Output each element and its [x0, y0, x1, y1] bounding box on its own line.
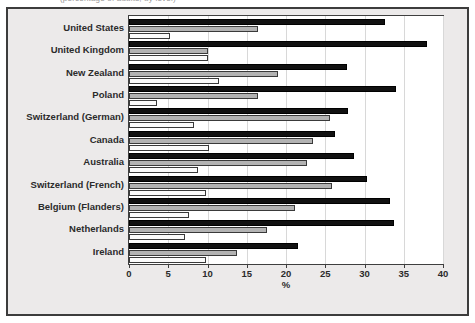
chart-figure: United StatesUnited KingdomNew ZealandPo…: [6, 7, 469, 316]
category-label: United Kingdom: [51, 45, 124, 55]
axis-tick-label: 25: [320, 268, 331, 279]
bar-group: [129, 243, 443, 265]
bar-series-1: [129, 41, 427, 47]
bar-series-2: [129, 160, 307, 166]
category-label: Belgium (Flanders): [38, 202, 124, 212]
bar-series-2: [129, 93, 258, 99]
clipped-caption-text: (percentage of adults, by level): [60, 0, 176, 3]
bar-series-1: [129, 86, 396, 92]
category-label: Poland: [92, 90, 124, 100]
bar-series-2: [129, 26, 258, 32]
bar-group: [129, 108, 443, 130]
bar-series-2: [129, 205, 295, 211]
bar-group: [129, 176, 443, 198]
bar-group: [129, 86, 443, 108]
bar-series-3: [129, 167, 198, 173]
bar-series-2: [129, 227, 267, 233]
bar-series-1: [129, 243, 298, 249]
category-label: United States: [63, 23, 124, 33]
bar-series-1: [129, 220, 394, 226]
axis-tick-label: 15: [241, 268, 252, 279]
x-axis-title: %: [128, 279, 444, 290]
category-label: Netherlands: [69, 224, 124, 234]
plot-area: [128, 15, 444, 265]
bar-series-3: [129, 78, 219, 84]
bar-series-2: [129, 71, 278, 77]
category-label: Canada: [90, 135, 124, 145]
axis-tick-label: 35: [398, 268, 409, 279]
category-label: Switzerland (German): [26, 112, 124, 122]
bar-group: [129, 41, 443, 63]
bar-series-2: [129, 115, 330, 121]
axis-tick-label: 0: [126, 268, 131, 279]
category-label: Australia: [83, 157, 124, 167]
category-axis-labels: United StatesUnited KingdomNew ZealandPo…: [8, 15, 128, 265]
bar-series-1: [129, 131, 335, 137]
axis-tick-label: 20: [281, 268, 292, 279]
bar-series-1: [129, 153, 354, 159]
bar-group: [129, 220, 443, 242]
axis-tick-label: 30: [359, 268, 370, 279]
bar-group: [129, 131, 443, 153]
bar-series-3: [129, 100, 157, 106]
category-label: New Zealand: [66, 68, 124, 78]
bar-series-3: [129, 55, 208, 61]
bar-group: [129, 64, 443, 86]
bar-series-3: [129, 122, 194, 128]
category-label: Switzerland (French): [31, 180, 124, 190]
bar-series-2: [129, 183, 332, 189]
clipped-caption: (percentage of adults, by level): [0, 0, 475, 6]
bar-series-1: [129, 19, 385, 25]
gridline: [443, 16, 444, 264]
bar-series-1: [129, 64, 347, 70]
bar-series-2: [129, 250, 237, 256]
bar-group: [129, 198, 443, 220]
bar-series-3: [129, 145, 209, 151]
category-label: Ireland: [93, 247, 124, 257]
axis-tick-label: 5: [166, 268, 171, 279]
bar-group: [129, 19, 443, 41]
bar-series-3: [129, 212, 189, 218]
bar-series-1: [129, 108, 348, 114]
bar-series-3: [129, 33, 170, 39]
bar-series-1: [129, 198, 390, 204]
axis-tick-label: 40: [438, 268, 449, 279]
bar-group: [129, 153, 443, 175]
axis-tick-label: 10: [202, 268, 213, 279]
bar-series-3: [129, 257, 206, 263]
bar-series-3: [129, 234, 185, 240]
bar-series-3: [129, 190, 206, 196]
bar-series-1: [129, 176, 367, 182]
screenshot-root: (percentage of adults, by level) United …: [0, 0, 475, 323]
bar-series-2: [129, 138, 313, 144]
bar-series-2: [129, 48, 208, 54]
